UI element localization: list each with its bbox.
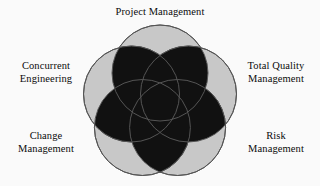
diagram-canvas: Project Management Concurrent Engineerin… xyxy=(0,0,320,186)
label-change-management: Change Management xyxy=(4,130,88,155)
label-risk-management: Risk Management xyxy=(234,130,318,155)
label-project-management: Project Management xyxy=(95,6,225,19)
venn-diagram-graphic xyxy=(0,0,320,186)
label-total-quality-management: Total Quality Management xyxy=(234,60,318,85)
label-concurrent-engineering: Concurrent Engineering xyxy=(4,60,88,85)
